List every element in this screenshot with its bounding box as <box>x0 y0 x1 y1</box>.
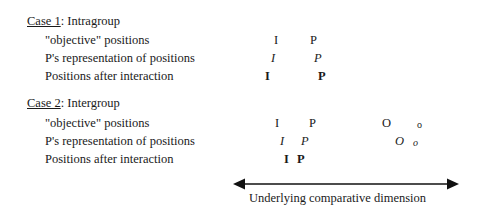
case-2-objective-P: P <box>309 116 316 130</box>
case-1-objective-P: P <box>310 33 317 47</box>
case-1-objective-I: I <box>274 33 278 47</box>
case-1-after-label: Positions after interaction <box>45 69 173 83</box>
case-1-label: Case 1 <box>27 14 61 28</box>
case-1-after-P: P <box>318 69 326 83</box>
case-1-representation-label: P's representation of positions <box>45 51 195 65</box>
case-2-representation-O: O <box>395 134 404 148</box>
double-arrow-icon <box>233 177 459 191</box>
case-2-representation-P: P <box>301 134 309 148</box>
case-2-label: Case 2 <box>27 96 61 110</box>
case-2-type: : Intergroup <box>61 96 120 110</box>
case-1-representation-I: I <box>271 51 275 65</box>
case-1-representation-P: P <box>314 51 322 65</box>
case-2-title: Case 2: Intergroup <box>27 96 120 110</box>
case-2-representation-label: P's representation of positions <box>45 134 195 148</box>
case-2-objective-I: I <box>275 116 279 130</box>
case-1-after-I: I <box>265 69 270 83</box>
axis-caption: Underlying comparative dimension <box>249 191 426 205</box>
case-2-after-label: Positions after interaction <box>45 152 173 166</box>
case-2-objective-o: o <box>417 118 422 132</box>
case-1-type: : Intragroup <box>61 14 120 28</box>
case-2-after-P: P <box>297 152 305 166</box>
case-2-objective-label: "objective" positions <box>45 116 149 130</box>
case-2-after-I: I <box>284 152 289 166</box>
case-1-title: Case 1: Intragroup <box>27 14 120 28</box>
case-2-representation-I: I <box>280 134 284 148</box>
case-1-objective-label: "objective" positions <box>45 33 149 47</box>
case-2-representation-o: o <box>413 136 418 150</box>
case-2-objective-O: O <box>382 116 391 130</box>
